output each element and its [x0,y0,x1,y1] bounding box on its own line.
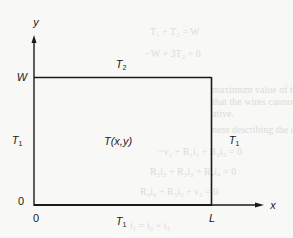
diagram-lines [0,0,293,238]
diagram-canvas: T₁ + T₂ = W −W + 3T₂ = 0 maximum value o… [0,0,293,238]
bottom-boundary-temp: T1 [116,216,127,228]
interior-temperature-label: T(x,y) [104,136,132,147]
origin-y-label: 0 [18,196,24,207]
top-boundary-temp: T2 [116,59,127,71]
x-axis-label: x [270,200,276,211]
origin-x-label: 0 [33,213,39,224]
x-axis-arrow-icon [255,203,264,208]
width-label: L [209,213,215,224]
left-boundary-temp: T1 [12,135,23,147]
y-axis-arrow-icon [32,35,37,43]
right-boundary-temp: T1 [229,135,240,147]
height-label: W [17,72,27,83]
y-axis-label: y [33,17,39,28]
